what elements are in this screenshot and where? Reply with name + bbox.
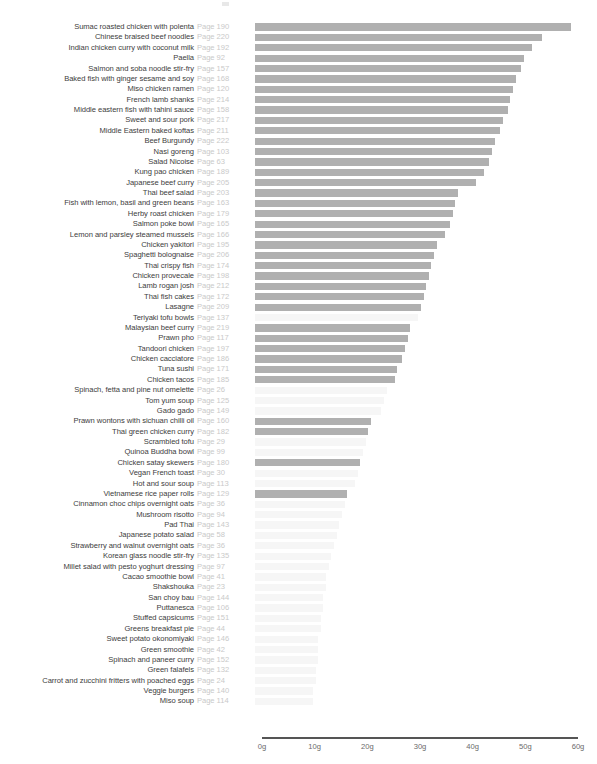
chart-row: Prawn wontons with sichuan chilli oilPag… bbox=[0, 416, 597, 426]
bar-track bbox=[255, 198, 597, 208]
recipe-name-label: Herby roast chicken bbox=[0, 209, 197, 219]
chart-row: PaellaPage 92 bbox=[0, 53, 597, 63]
recipe-page-reference: Page 189 bbox=[197, 167, 255, 177]
bar-track bbox=[255, 261, 597, 271]
bar-track bbox=[255, 64, 597, 74]
protein-bar bbox=[255, 449, 363, 456]
protein-bar bbox=[255, 55, 524, 62]
bar-track bbox=[255, 95, 597, 105]
recipe-name-label: Greens breakfast pie bbox=[0, 624, 197, 634]
chart-row: Lemon and parsley steamed musselsPage 16… bbox=[0, 230, 597, 240]
chart-row: Malaysian beef curryPage 219 bbox=[0, 323, 597, 333]
protein-bar bbox=[255, 418, 371, 425]
x-tick-30g: 30g bbox=[414, 742, 427, 751]
protein-bar bbox=[255, 86, 513, 93]
chart-row: Chicken yakitoriPage 195 bbox=[0, 240, 597, 250]
protein-bar bbox=[255, 210, 453, 217]
recipe-page-reference: Page 163 bbox=[197, 198, 255, 208]
protein-bar bbox=[255, 573, 326, 580]
protein-bar bbox=[255, 335, 408, 342]
recipe-page-reference: Page 197 bbox=[197, 344, 255, 354]
recipe-name-label: Malaysian beef curry bbox=[0, 323, 197, 333]
recipe-page-reference: Page 186 bbox=[197, 354, 255, 364]
chart-row: Spinach and paneer curryPage 152 bbox=[0, 655, 597, 665]
recipe-page-reference: Page 36 bbox=[197, 499, 255, 509]
bar-track bbox=[255, 468, 597, 478]
bar-track bbox=[255, 427, 597, 437]
chart-row: Middle eastern fish with tahini saucePag… bbox=[0, 105, 597, 115]
recipe-page-reference: Page 114 bbox=[197, 696, 255, 706]
recipe-page-reference: Page 182 bbox=[197, 427, 255, 437]
x-tick-20g: 20g bbox=[361, 742, 374, 751]
bar-track bbox=[255, 541, 597, 551]
protein-bar bbox=[255, 138, 495, 145]
chart-row: Green smoothiePage 42 bbox=[0, 645, 597, 655]
recipe-page-reference: Page 44 bbox=[197, 624, 255, 634]
recipe-name-label: Chicken satay skewers bbox=[0, 458, 197, 468]
chart-row: Mushroom risottoPage 94 bbox=[0, 510, 597, 520]
protein-bar bbox=[255, 127, 500, 134]
protein-bar bbox=[255, 604, 323, 611]
chart-row: Miso soupPage 114 bbox=[0, 696, 597, 706]
bar-track bbox=[255, 613, 597, 623]
chart-row: Fish with lemon, basil and green beansPa… bbox=[0, 198, 597, 208]
protein-bar bbox=[255, 179, 476, 186]
recipe-page-reference: Page 220 bbox=[197, 32, 255, 42]
recipe-name-label: Chicken provecale bbox=[0, 271, 197, 281]
bar-track bbox=[255, 281, 597, 291]
bar-track bbox=[255, 292, 597, 302]
protein-bar bbox=[255, 304, 421, 311]
protein-bar bbox=[255, 563, 329, 570]
recipe-page-reference: Page 137 bbox=[197, 313, 255, 323]
recipe-name-label: Millet salad with pesto yoghurt dressing bbox=[0, 562, 197, 572]
bar-track bbox=[255, 396, 597, 406]
bar-track bbox=[255, 375, 597, 385]
bar-track bbox=[255, 437, 597, 447]
recipe-name-label: Middle eastern fish with tahini sauce bbox=[0, 105, 197, 115]
chart-row: Tom yum soupPage 125 bbox=[0, 396, 597, 406]
bar-track bbox=[255, 32, 597, 42]
bar-track bbox=[255, 323, 597, 333]
bar-track bbox=[255, 489, 597, 499]
recipe-name-label: Strawberry and walnut overnight oats bbox=[0, 541, 197, 551]
recipe-page-reference: Page 198 bbox=[197, 271, 255, 281]
bar-track bbox=[255, 313, 597, 323]
protein-bar bbox=[255, 687, 313, 694]
recipe-name-label: Thai fish cakes bbox=[0, 292, 197, 302]
bar-track bbox=[255, 406, 597, 416]
recipe-page-reference: Page 180 bbox=[197, 458, 255, 468]
recipe-page-reference: Page 168 bbox=[197, 74, 255, 84]
bar-track bbox=[255, 22, 597, 32]
recipe-name-label: Gado gado bbox=[0, 406, 197, 416]
chart-row: Pad ThaiPage 143 bbox=[0, 520, 597, 530]
recipe-page-reference: Page 217 bbox=[197, 115, 255, 125]
bar-track bbox=[255, 209, 597, 219]
protein-bar bbox=[255, 480, 355, 487]
recipe-page-reference: Page 140 bbox=[197, 686, 255, 696]
recipe-page-reference: Page 190 bbox=[197, 22, 255, 32]
chart-row: Prawn phoPage 117 bbox=[0, 333, 597, 343]
recipe-name-label: Green falafels bbox=[0, 665, 197, 675]
protein-bar bbox=[255, 34, 542, 41]
recipe-page-reference: Page 23 bbox=[197, 582, 255, 592]
recipe-page-reference: Page 29 bbox=[197, 437, 255, 447]
chart-row: Teriyaki tofu bowlsPage 137 bbox=[0, 313, 597, 323]
chart-row: Vegan French toastPage 30 bbox=[0, 468, 597, 478]
protein-bar bbox=[255, 366, 397, 373]
bar-track bbox=[255, 271, 597, 281]
recipe-name-label: Thai green chicken curry bbox=[0, 427, 197, 437]
protein-bar bbox=[255, 553, 331, 560]
recipe-name-label: Lamb rogan josh bbox=[0, 281, 197, 291]
protein-bar bbox=[255, 189, 458, 196]
recipe-page-reference: Page 219 bbox=[197, 323, 255, 333]
recipe-page-reference: Page 143 bbox=[197, 520, 255, 530]
chart-row: Quinoa Buddha bowlPage 99 bbox=[0, 447, 597, 457]
chart-row: Greens breakfast piePage 44 bbox=[0, 624, 597, 634]
recipe-name-label: Teriyaki tofu bowls bbox=[0, 313, 197, 323]
chart-row: Spinach, fetta and pine nut omelettePage… bbox=[0, 385, 597, 395]
chart-row: Indian chicken curry with coconut milkPa… bbox=[0, 43, 597, 53]
bar-track bbox=[255, 416, 597, 426]
chart-row: Cinnamon choc chips overnight oatsPage 3… bbox=[0, 499, 597, 509]
recipe-name-label: Japanese beef curry bbox=[0, 178, 197, 188]
recipe-name-label: Salad Nicoise bbox=[0, 157, 197, 167]
